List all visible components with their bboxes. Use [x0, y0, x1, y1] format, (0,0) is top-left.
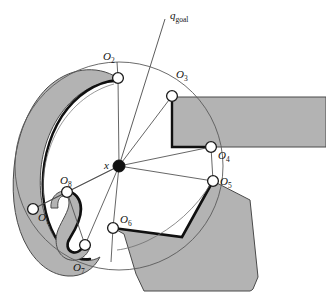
label-O7-base: O: [73, 261, 81, 273]
node-O5[interactable]: [208, 176, 219, 187]
node-O6[interactable]: [108, 223, 119, 234]
figure-root: qgoal x O1 O2 O3 O4 O5 O6 O7 O8: [0, 0, 326, 306]
label-q-goal-subscript: goal: [176, 15, 189, 24]
node-O7[interactable]: [80, 240, 91, 251]
label-O6-sub: 6: [128, 219, 132, 228]
ray-x-to-O8: [67, 166, 119, 192]
label-node-O5: O5: [220, 176, 232, 187]
label-node-O4: O4: [218, 150, 230, 161]
label-node-O8: O8: [60, 175, 72, 186]
node-x-center[interactable]: [113, 160, 125, 172]
label-O7-sub: 7: [81, 267, 85, 276]
node-O1[interactable]: [28, 204, 39, 215]
label-node-O7: O7: [73, 262, 85, 273]
ray-x-to-O5: [119, 166, 213, 181]
label-node-O3: O3: [176, 69, 188, 80]
label-O1-sub: 1: [46, 217, 50, 226]
label-node-O1: O1: [38, 212, 50, 223]
label-q-goal: qgoal: [170, 10, 188, 21]
goal-ray-layer: [119, 19, 165, 166]
ray-x-to-O4: [119, 147, 211, 166]
ray-x-to-O6: [113, 166, 119, 228]
label-node-O2: O2: [103, 51, 115, 62]
label-O8-base: O: [60, 174, 68, 186]
label-O6-base: O: [120, 213, 128, 225]
node-O2[interactable]: [113, 73, 124, 84]
node-O4[interactable]: [206, 142, 217, 153]
node-O3[interactable]: [167, 91, 178, 102]
label-q-goal-base: q: [170, 9, 176, 21]
diagram-canvas: [0, 0, 326, 306]
label-O3-base: O: [176, 68, 184, 80]
label-x-center: x: [104, 160, 109, 171]
ray-x-to-O2: [118, 78, 119, 166]
label-O3-sub: 3: [184, 74, 188, 83]
obstacle-bottom-right-polygon: [113, 181, 258, 291]
label-O5-base: O: [220, 175, 228, 187]
label-O8-sub: 8: [68, 180, 72, 189]
label-O4-sub: 4: [226, 155, 230, 164]
ray-x-to-O3: [119, 96, 172, 166]
label-node-O6: O6: [120, 214, 132, 225]
label-O5-sub: 5: [228, 181, 232, 190]
label-O2-sub: 2: [111, 56, 115, 65]
label-O2-base: O: [103, 50, 111, 62]
label-O4-base: O: [218, 149, 226, 161]
obstacle-top-right-rectangle: [172, 97, 326, 147]
label-O1-base: O: [38, 211, 46, 223]
goal-ray: [119, 19, 165, 166]
